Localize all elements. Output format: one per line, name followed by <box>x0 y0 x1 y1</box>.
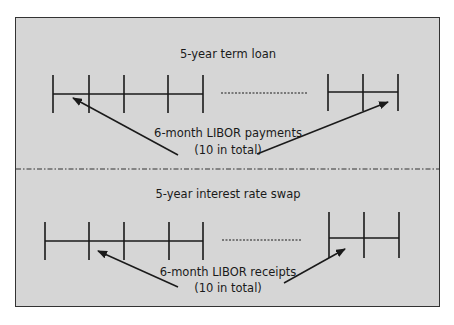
diagram-canvas: 5-year term loan 6-month LIBOR payments … <box>0 0 454 325</box>
term-loan-panel: 5-year term loan 6-month LIBOR payments … <box>53 47 398 157</box>
interest-rate-swap-panel: 5-year interest rate swap 6-month LIBOR … <box>45 187 399 295</box>
swap-timeline-left <box>45 222 203 260</box>
term-loan-title: 5-year term loan <box>180 47 276 61</box>
swap-annotation-line2: (10 in total) <box>194 281 262 295</box>
swap-annotation-line1: 6-month LIBOR receipts <box>160 265 297 279</box>
term-loan-annotation-line1: 6-month LIBOR payments <box>154 126 302 140</box>
swap-timeline-right <box>329 212 399 258</box>
term-loan-timeline-left <box>53 75 203 113</box>
swap-title: 5-year interest rate swap <box>155 187 300 201</box>
term-loan-annotation-line2: (10 in total) <box>194 143 262 157</box>
term-loan-timeline-right <box>328 74 398 111</box>
